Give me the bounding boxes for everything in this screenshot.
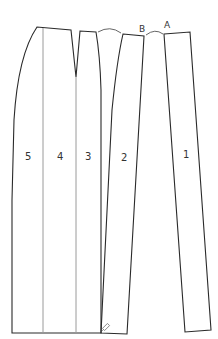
piece-1-outline (164, 32, 211, 332)
waist-arc-3-2 (98, 29, 121, 33)
piece-2-outline (101, 34, 144, 334)
pattern-diagram: 5 4 3 2 1 B A (0, 0, 218, 339)
point-a-label: A (164, 20, 171, 30)
waist-arc-b-a (146, 31, 163, 35)
pin-mark-icon (101, 323, 109, 331)
point-b-label: B (139, 24, 145, 34)
piece-5-label: 5 (25, 151, 31, 162)
piece-3-label: 3 (85, 151, 91, 162)
piece-5-4-3-outline (12, 27, 101, 333)
piece-4-label: 4 (57, 151, 63, 162)
piece-2-label: 2 (121, 152, 127, 163)
piece-1-label: 1 (183, 149, 189, 160)
